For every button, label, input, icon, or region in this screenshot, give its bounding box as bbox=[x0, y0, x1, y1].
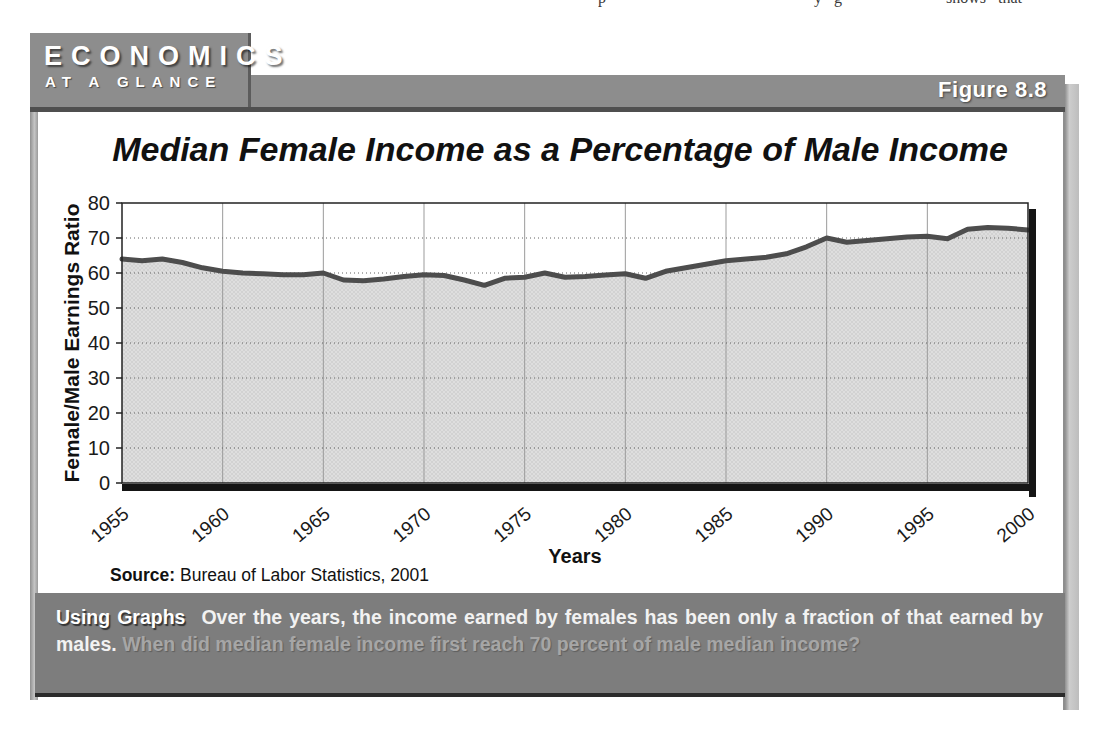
x-tick-label: 2000 bbox=[993, 503, 1039, 546]
y-tick-label: 40 bbox=[88, 332, 110, 354]
x-tick-label: 1975 bbox=[489, 503, 535, 546]
x-tick-label: 1965 bbox=[288, 503, 334, 546]
plot-bottom-shadow bbox=[122, 484, 1036, 491]
textbook-figure-page: p y g shows that Figure 8.8 ECONOMICS AT… bbox=[0, 0, 1099, 741]
source-note: Source: Bureau of Labor Statistics, 2001 bbox=[110, 565, 429, 586]
source-text: Bureau of Labor Statistics, 2001 bbox=[175, 565, 429, 585]
caption-lead: Using Graphs bbox=[56, 606, 185, 628]
figure-right-border bbox=[1063, 84, 1079, 710]
x-tick-label: 1995 bbox=[892, 503, 938, 546]
earnings-ratio-area-chart: 0102030405060708019551960196519701975198… bbox=[38, 112, 1063, 593]
kicker-title: ECONOMICS bbox=[44, 41, 248, 72]
caption-question: When did median female income first reac… bbox=[122, 633, 860, 655]
using-graphs-caption: Using GraphsOver the years, the income e… bbox=[35, 593, 1065, 697]
y-tick-label: 20 bbox=[88, 402, 110, 424]
area-fill bbox=[122, 228, 1028, 484]
y-tick-label: 60 bbox=[88, 262, 110, 284]
y-tick-label: 10 bbox=[88, 437, 110, 459]
economics-at-a-glance-tab: ECONOMICS AT A GLANCE bbox=[30, 33, 248, 107]
x-tick-label: 1970 bbox=[389, 503, 435, 546]
figure-number-label: Figure 8.8 bbox=[938, 77, 1047, 103]
y-tick-label: 80 bbox=[88, 192, 110, 214]
x-tick-label: 1960 bbox=[187, 503, 233, 546]
x-tick-label: 1985 bbox=[691, 503, 737, 546]
y-tick-label: 50 bbox=[88, 297, 110, 319]
y-tick-label: 70 bbox=[88, 227, 110, 249]
x-tick-label: 1980 bbox=[590, 503, 636, 546]
x-tick-label: 1990 bbox=[791, 503, 837, 546]
kicker-subtitle: AT A GLANCE bbox=[45, 73, 248, 90]
plot-right-shadow bbox=[1029, 209, 1036, 497]
y-axis-label: Female/Male Earnings Ratio bbox=[60, 204, 84, 483]
cropped-page-text: p y g shows that bbox=[598, 0, 1098, 11]
source-label: Source: bbox=[110, 565, 175, 585]
x-tick-label: 1955 bbox=[87, 503, 133, 546]
y-tick-label: 0 bbox=[99, 472, 110, 494]
y-tick-label: 30 bbox=[88, 367, 110, 389]
